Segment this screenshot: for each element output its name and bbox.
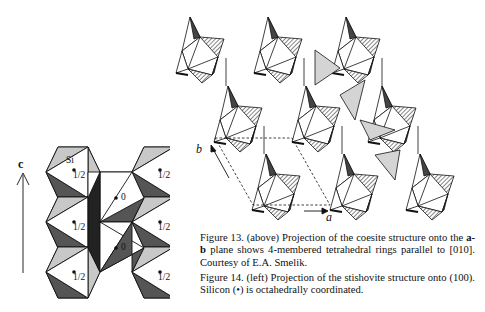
height-label: 1/2 xyxy=(73,170,85,180)
figure-13-caption: Figure 13. (above) Projection of the coe… xyxy=(200,232,475,269)
si-label: Si xyxy=(66,155,74,165)
axis-c-label: c xyxy=(18,157,23,172)
height-label: 1/2 xyxy=(158,170,170,180)
figure-14-caption: Figure 14. (left) Projection of the stis… xyxy=(200,272,475,297)
caption-text: plane shows 4-membered tetrahedral rings… xyxy=(200,244,475,267)
height-label: 1/2 xyxy=(73,272,85,282)
height-label: 0 xyxy=(121,242,126,252)
height-label: 0 xyxy=(121,192,126,202)
stishovite-structure-figure xyxy=(0,130,170,312)
height-label: 1/2 xyxy=(73,222,85,232)
height-label: 1/2 xyxy=(158,272,170,282)
axis-a-label: a xyxy=(326,210,332,225)
axis-b-label: b xyxy=(196,142,202,157)
caption-text: Figure 13. (above) Projection of the coe… xyxy=(200,232,466,243)
height-label: 1/2 xyxy=(158,222,170,232)
